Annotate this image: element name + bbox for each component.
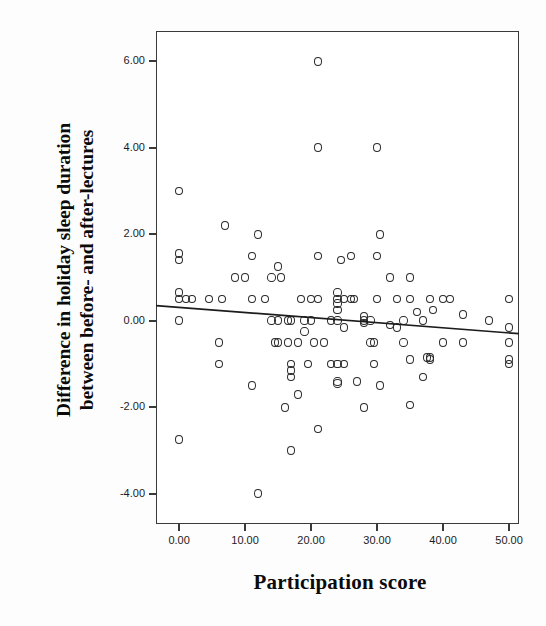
y-axis-tick-mark bbox=[149, 60, 156, 62]
y-axis-tick-mark bbox=[149, 493, 156, 495]
y-axis-title-container: Difference in holiday sleep duration bet… bbox=[0, 0, 150, 540]
x-axis-title: Participation score bbox=[150, 570, 530, 595]
x-axis-tick-mark bbox=[376, 524, 378, 531]
x-axis-tick-label: 50.00 bbox=[486, 534, 532, 546]
y-axis-tick-label: 4.00 bbox=[101, 141, 145, 153]
y-axis-tick-label: 6.00 bbox=[101, 54, 145, 66]
x-axis-tick-label: 40.00 bbox=[420, 534, 466, 546]
x-axis-tick-mark bbox=[310, 524, 312, 531]
x-axis-tick-mark bbox=[508, 524, 510, 531]
x-axis-tick-mark bbox=[244, 524, 246, 531]
y-axis-tick-mark bbox=[149, 320, 156, 322]
regression-line-layer bbox=[156, 31, 519, 524]
y-axis-tick-label: -2.00 bbox=[101, 400, 145, 412]
y-axis-tick-mark bbox=[149, 147, 156, 149]
regression-line bbox=[156, 306, 519, 334]
x-axis-tick-label: 20.00 bbox=[288, 534, 334, 546]
chart-page: Difference in holiday sleep duration bet… bbox=[0, 0, 546, 626]
y-axis-title-line1: Difference in holiday sleep duration bbox=[52, 123, 75, 417]
y-axis-title-line2: between before- and after-lectures bbox=[75, 123, 98, 417]
y-axis-tick-label: 0.00 bbox=[101, 314, 145, 326]
y-axis-tick-mark bbox=[149, 406, 156, 408]
y-axis-tick-label: -4.00 bbox=[101, 487, 145, 499]
x-axis-tick-label: 10.00 bbox=[222, 534, 268, 546]
y-axis-tick-label: 2.00 bbox=[101, 227, 145, 239]
x-axis-tick-label: 30.00 bbox=[354, 534, 400, 546]
x-axis-tick-mark bbox=[178, 524, 180, 531]
x-axis-tick-label: 0.00 bbox=[156, 534, 202, 546]
y-axis-title: Difference in holiday sleep duration bet… bbox=[52, 123, 98, 417]
x-axis-tick-mark bbox=[442, 524, 444, 531]
y-axis-tick-mark bbox=[149, 233, 156, 235]
